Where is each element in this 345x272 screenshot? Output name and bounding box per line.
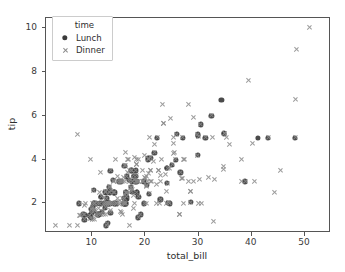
data-point-dinner — [146, 134, 153, 141]
data-point-dinner — [129, 178, 136, 185]
data-point-dinner — [89, 216, 96, 223]
data-point-dinner — [107, 167, 114, 174]
data-point-dinner — [153, 200, 160, 207]
data-point-dinner — [103, 222, 110, 229]
legend-marker-circle-icon — [58, 32, 72, 44]
data-point-dinner — [166, 200, 173, 207]
data-point-dinner — [202, 134, 209, 141]
data-point-dinner — [159, 101, 166, 108]
data-point-dinner — [293, 46, 300, 53]
data-point-dinner — [87, 156, 94, 163]
x-tick-mark — [304, 232, 305, 236]
x-tick-label: 30 — [192, 237, 203, 247]
data-point-dinner — [180, 200, 187, 207]
legend-item-dinner: Dinner — [58, 44, 105, 56]
data-point-dinner — [226, 141, 233, 148]
legend-label-lunch: Lunch — [72, 33, 102, 43]
data-point-dinner — [292, 96, 299, 103]
data-point-dinner — [132, 167, 139, 174]
data-point-dinner — [154, 134, 161, 141]
data-point-lunch — [256, 135, 261, 140]
data-point-dinner — [251, 178, 258, 185]
data-point-dinner — [306, 24, 313, 31]
data-point-dinner — [194, 152, 201, 159]
data-point-dinner — [153, 181, 160, 188]
legend-item-lunch: Lunch — [58, 32, 105, 44]
data-point-dinner — [177, 169, 184, 176]
x-tick-label: 40 — [245, 237, 256, 247]
data-point-dinner — [187, 199, 194, 206]
data-point-dinner — [163, 188, 170, 195]
data-point-dinner — [211, 176, 218, 183]
y-tick-mark — [42, 115, 46, 116]
x-tick-mark — [198, 232, 199, 236]
x-tick-label: 20 — [139, 237, 150, 247]
data-point-dinner — [292, 134, 299, 141]
data-point-dinner — [190, 114, 197, 121]
data-point-dinner — [181, 156, 188, 163]
data-point-dinner — [80, 211, 87, 218]
data-point-dinner — [160, 120, 167, 127]
x-tick-mark — [144, 232, 145, 236]
legend-marker-x-icon — [58, 44, 72, 56]
data-point-dinner — [52, 222, 59, 229]
data-point-dinner — [220, 163, 227, 170]
data-point-dinner — [147, 167, 154, 174]
data-point-dinner — [130, 205, 137, 212]
data-point-dinner — [99, 208, 106, 215]
data-point-dinner — [197, 121, 204, 128]
data-point-dinner — [179, 134, 186, 141]
data-point-dinner — [135, 178, 142, 185]
y-tick-mark — [42, 159, 46, 160]
data-point-dinner — [209, 134, 216, 141]
data-point-dinner — [155, 167, 162, 174]
data-point-dinner — [238, 156, 245, 163]
y-axis-label: tip — [6, 118, 17, 130]
data-point-dinner — [146, 190, 153, 197]
data-point-dinner — [105, 200, 112, 207]
legend-label-dinner: Dinner — [72, 45, 105, 55]
data-point-dinner — [119, 211, 126, 218]
data-point-dinner — [145, 156, 152, 163]
data-point-dinner — [135, 214, 142, 221]
data-point-dinner — [271, 189, 278, 196]
y-tick-label: 8 — [31, 66, 37, 76]
data-point-dinner — [158, 156, 165, 163]
data-point-dinner — [249, 140, 256, 147]
y-tick-label: 2 — [31, 197, 37, 207]
scatter-plot-figure: 1020304050246810 total_bill tip time Lun… — [0, 0, 345, 272]
data-point-dinner — [195, 200, 202, 207]
data-point-dinner — [121, 195, 128, 202]
data-point-dinner — [187, 188, 194, 195]
x-tick-mark — [91, 232, 92, 236]
data-point-dinner — [151, 141, 158, 148]
data-point-dinner — [66, 222, 73, 229]
data-point-dinner — [221, 130, 228, 137]
data-point-dinner — [107, 187, 114, 194]
data-point-lunch — [219, 98, 224, 103]
y-tick-label: 6 — [31, 110, 37, 120]
data-point-dinner — [164, 180, 171, 187]
x-tick-label: 50 — [298, 237, 309, 247]
data-point-dinner — [97, 169, 104, 176]
data-point-dinner — [242, 178, 249, 185]
data-point-dinner — [176, 211, 183, 218]
data-point-dinner — [194, 131, 201, 138]
legend-title: time — [58, 20, 105, 30]
y-tick-mark — [42, 202, 46, 203]
data-point-dinner — [277, 167, 284, 174]
data-point-dinner — [88, 206, 95, 213]
data-point-dinner — [107, 209, 114, 216]
data-point-dinner — [126, 222, 133, 229]
data-point-dinner — [196, 176, 203, 183]
data-point-dinner — [169, 161, 176, 168]
y-tick-mark — [42, 27, 46, 28]
data-point-dinner — [245, 77, 252, 84]
data-point-dinner — [141, 200, 148, 207]
data-point-dinner — [185, 101, 192, 108]
data-point-dinner — [170, 140, 177, 147]
data-point-dinner — [135, 156, 142, 163]
data-point-dinner — [208, 112, 215, 119]
data-point-dinner — [118, 178, 125, 185]
data-point-dinner — [167, 115, 174, 122]
